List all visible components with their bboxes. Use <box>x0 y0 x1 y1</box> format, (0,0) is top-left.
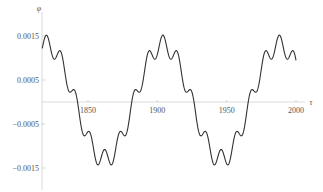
chart: 0.00150.0005−0.0005−0.0015 1850190019502… <box>0 0 323 192</box>
y-tick-label: 0.0005 <box>17 76 39 85</box>
x-axis-label: τ <box>310 98 314 107</box>
y-axis-label: φ <box>37 4 42 13</box>
x-tick-label: 2000 <box>288 106 304 115</box>
y-tick-label: −0.0015 <box>12 164 39 173</box>
y-tick-label: −0.0005 <box>12 120 39 129</box>
x-tick-label: 1900 <box>149 106 165 115</box>
x-tick-label: 1950 <box>219 106 235 115</box>
data-line <box>42 35 296 165</box>
y-ticks: 0.00150.0005−0.0005−0.0015 <box>12 32 45 173</box>
y-tick-label: 0.0015 <box>17 32 39 41</box>
x-tick-label: 1850 <box>80 106 96 115</box>
